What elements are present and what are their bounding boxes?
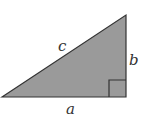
right-triangle-diagram: c b a	[0, 0, 142, 123]
label-c: c	[58, 37, 67, 55]
label-b: b	[129, 51, 139, 69]
label-a: a	[66, 100, 75, 118]
triangle	[2, 15, 126, 97]
